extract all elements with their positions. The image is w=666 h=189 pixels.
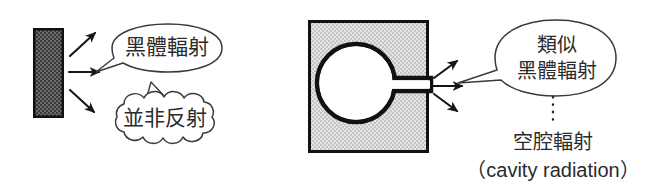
not-reflection-label: 並非反射 xyxy=(123,106,207,130)
cavity-arrow-down xyxy=(434,94,457,111)
similar-blackbody-label-line1: 類似 xyxy=(537,33,577,57)
emission-arrow-up xyxy=(70,33,95,56)
cavity-arrow-up xyxy=(434,61,457,78)
cavity-block xyxy=(308,20,431,153)
blackbody-radiation-label: 黑體輻射 xyxy=(125,35,209,59)
similar-blackbody-label-line2: 黑體輻射 xyxy=(517,59,597,83)
cavity-caption-line1: 空腔輻射 xyxy=(513,130,593,154)
blackbody-radiation-bubble: 黑體輻射 xyxy=(96,24,222,72)
cavity-radiation-caption: 空腔輻射 （cavity radiation） xyxy=(466,130,639,181)
cavity-emission-arrows xyxy=(433,61,462,111)
figure-root: 黑體輻射 並非反射 xyxy=(0,0,666,189)
blackbody-slab-panel: 黑體輻射 並非反射 xyxy=(33,24,222,143)
emission-arrows xyxy=(69,33,99,112)
emission-arrow-down xyxy=(70,90,94,112)
blackbody-slab xyxy=(33,28,64,118)
cavity-panel: 類似 黑體輻射 空腔輻射 （cavity radiation） xyxy=(308,20,640,181)
similar-blackbody-bubble: 類似 黑體輻射 xyxy=(458,20,616,96)
figure-canvas: 黑體輻射 並非反射 xyxy=(0,0,666,189)
cavity-caption-line2: （cavity radiation） xyxy=(466,159,639,181)
not-reflection-bubble: 並非反射 xyxy=(116,82,215,143)
